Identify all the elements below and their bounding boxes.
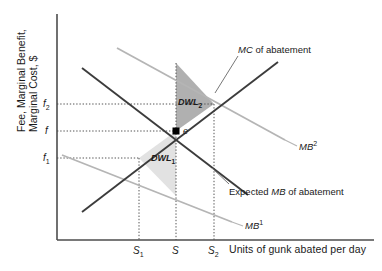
mb1-label-leader bbox=[232, 222, 243, 226]
equilibrium-point-label: e bbox=[183, 126, 188, 136]
x-tick-s1: S1 bbox=[133, 245, 144, 258]
x-tick-s2: S2 bbox=[208, 245, 219, 258]
equilibrium-point-e bbox=[173, 128, 180, 135]
mb2-curve bbox=[117, 48, 285, 140]
expected-mb-label-leader bbox=[212, 168, 229, 184]
expected-mb-curve-label: Expected MB of abatement bbox=[229, 186, 344, 197]
diagram-canvas bbox=[0, 0, 382, 271]
y-axis-title-line2: Marginal Cost, $ bbox=[28, 29, 40, 132]
x-tick-s: S bbox=[172, 245, 179, 256]
mc-label-leader bbox=[215, 56, 238, 93]
x-axis-title: Units of gunk abated per day bbox=[229, 243, 366, 255]
dwl1-label: DWL1 bbox=[151, 153, 175, 165]
dwl2-label: DWL2 bbox=[178, 97, 202, 109]
mb1-curve-label: MB1 bbox=[245, 219, 263, 231]
y-tick-f1: f1 bbox=[43, 152, 50, 165]
mb2-label-leader bbox=[285, 140, 297, 146]
mb2-curve-label: MB2 bbox=[299, 140, 317, 152]
economics-diagram: Fee, Marginal Benefit, Marginal Cost, $ … bbox=[0, 0, 382, 271]
y-axis-title: Fee, Marginal Benefit, Marginal Cost, $ bbox=[16, 29, 39, 132]
mc-curve-label: MC of abatement bbox=[238, 44, 311, 55]
y-tick-f2: f2 bbox=[43, 98, 50, 111]
y-axis-title-line1: Fee, Marginal Benefit, bbox=[16, 29, 28, 132]
y-tick-f: f bbox=[45, 125, 48, 136]
